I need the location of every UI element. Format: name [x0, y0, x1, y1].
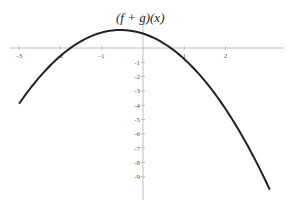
x-tick-label: -3	[16, 52, 22, 60]
chart-title: (f + g)(x)	[116, 10, 164, 25]
y-tick-label: -6	[134, 130, 140, 138]
x-tick-label: 2	[224, 52, 228, 60]
y-tick-label: -5	[134, 116, 140, 124]
y-tick-label: -7	[134, 145, 140, 153]
y-tick-label: -4	[134, 102, 140, 110]
y-tick-label: -2	[134, 73, 140, 81]
y-tick-label: -8	[134, 159, 140, 167]
y-tick-label: -9	[134, 173, 140, 181]
chart: (f + g)(x) -3-2-112 -1-2-3-4-5-6-7-8-9	[0, 0, 289, 206]
x-tick-label: -1	[99, 52, 105, 60]
y-tick-label: -3	[134, 87, 140, 95]
y-tick-label: -1	[134, 59, 140, 67]
